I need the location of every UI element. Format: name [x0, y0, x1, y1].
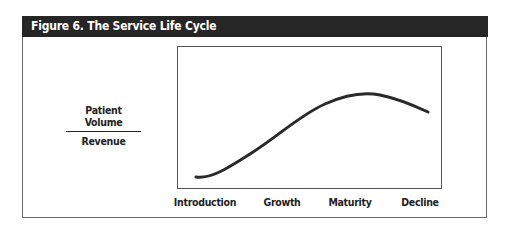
x-label-introduction: Introduction — [174, 196, 236, 208]
x-label-decline: Decline — [401, 196, 438, 208]
x-label-maturity: Maturity — [328, 196, 371, 208]
x-label-growth: Growth — [263, 196, 300, 208]
